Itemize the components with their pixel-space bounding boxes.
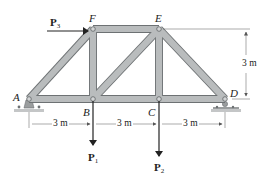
pin-f <box>91 27 96 32</box>
load-label-p3: P3 <box>50 17 60 30</box>
pin-e <box>157 27 162 32</box>
joint-label-d: D <box>230 88 238 99</box>
load-label-p2: P2 <box>154 162 164 175</box>
pin-d <box>223 97 228 102</box>
truss-diagram <box>0 0 269 178</box>
joint-label-c: C <box>148 107 155 118</box>
load-label-p1: P1 <box>88 152 98 165</box>
joint-label-a: A <box>13 92 20 103</box>
pin-b <box>91 97 96 102</box>
joint-label-e: E <box>155 13 162 24</box>
dimension-label-bc: 3 m <box>116 119 133 129</box>
truss-members <box>29 29 225 99</box>
joint-label-b: B <box>83 107 90 118</box>
dimension-label-cd: 3 m <box>182 119 199 129</box>
pin-a <box>27 97 32 102</box>
joint-label-f: F <box>89 13 96 24</box>
dimension-label-ab: 3 m <box>52 119 69 129</box>
pin-c <box>157 97 162 102</box>
dimension-label-height: 3 m <box>241 59 258 69</box>
